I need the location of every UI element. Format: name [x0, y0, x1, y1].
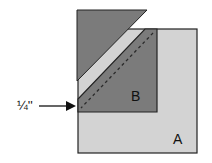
arrow-head-icon: [66, 101, 76, 111]
triangle-b-label: B: [131, 88, 140, 104]
quilt-diagram: ¼'' B A: [0, 0, 212, 163]
square-a-label: A: [173, 131, 183, 147]
seam-allowance-label: ¼'': [17, 98, 33, 113]
